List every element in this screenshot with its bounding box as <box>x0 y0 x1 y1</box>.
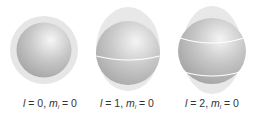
orbital-l2-diagram <box>166 0 254 95</box>
orbital-l0-diagram <box>0 0 90 95</box>
orbital-l1-diagram <box>84 0 174 95</box>
inner-sphere <box>178 18 246 84</box>
label-l0: l = 0, ml = 0 <box>23 97 77 110</box>
label-l2: l = 2, ml = 0 <box>185 97 239 110</box>
label-l1: l = 1, ml = 0 <box>100 97 154 110</box>
inner-sphere <box>17 23 72 78</box>
inner-sphere <box>96 21 160 85</box>
